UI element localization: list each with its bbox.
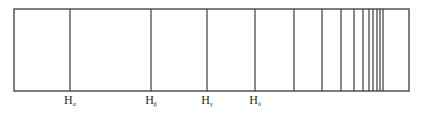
spectrum-box: [14, 9, 409, 91]
label-h-gamma: Hγ: [201, 93, 212, 111]
label-h-alpha: Hα: [64, 93, 76, 111]
label-h-delta: Hδ: [249, 93, 261, 111]
balmer-series-diagram: Hα Hβ Hγ Hδ: [0, 0, 421, 115]
label-h-beta: Hβ: [145, 93, 157, 111]
spectral-lines: [70, 9, 383, 91]
